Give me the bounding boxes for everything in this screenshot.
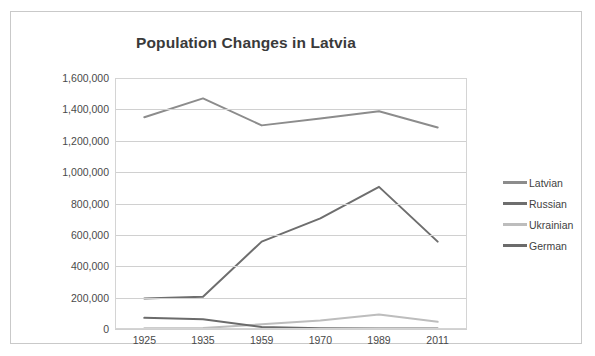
x-axis-tick-label: 2011 (426, 334, 449, 346)
legend-label: Latvian (529, 177, 563, 189)
chart-title: Population Changes in Latvia (11, 34, 481, 52)
legend-label: Ukrainian (529, 219, 573, 231)
legend-swatch-icon (503, 181, 527, 184)
y-axis-tick-label: 1,600,000 (62, 72, 109, 84)
plot-area (115, 78, 467, 329)
y-axis-tick-label: 1,400,000 (62, 103, 109, 115)
y-axis-tick-label: 800,000 (71, 198, 109, 210)
y-axis-tick-label: 200,000 (71, 292, 109, 304)
chart-legend: LatvianRussianUkrainianGerman (503, 172, 595, 256)
legend-swatch-icon (503, 223, 527, 226)
legend-item-ukrainian[interactable]: Ukrainian (503, 214, 595, 235)
x-axis-tick-label: 1935 (191, 334, 214, 346)
x-axis-tick-label: 1970 (309, 334, 332, 346)
x-axis-tick-label: 1925 (133, 334, 156, 346)
y-axis-tick-label: 400,000 (71, 260, 109, 272)
y-axis-tick-label: 0 (103, 323, 109, 335)
y-axis-tick-label: 600,000 (71, 229, 109, 241)
y-axis-tick-label: 1,200,000 (62, 135, 109, 147)
x-axis-tick-label: 1989 (367, 334, 390, 346)
y-axis-tick-label: 1,000,000 (62, 166, 109, 178)
legend-swatch-icon (503, 202, 527, 205)
chart-frame: Population Changes in Latvia 0200,000400… (10, 11, 582, 344)
x-axis-labels: 192519351959197019892011 (115, 334, 467, 354)
gridline (115, 329, 467, 330)
x-axis-tick-label: 1959 (250, 334, 273, 346)
legend-item-latvian[interactable]: Latvian (503, 172, 595, 193)
legend-label: Russian (529, 198, 567, 210)
legend-swatch-icon (503, 244, 527, 247)
legend-item-russian[interactable]: Russian (503, 193, 595, 214)
legend-item-german[interactable]: German (503, 235, 595, 256)
plot-border (115, 78, 467, 329)
legend-label: German (529, 240, 567, 252)
